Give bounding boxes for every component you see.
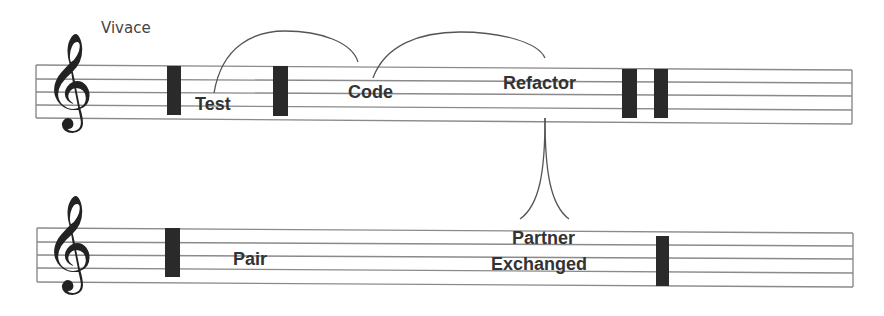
- slur-code-refactor: [373, 32, 545, 78]
- bar-4: [654, 69, 668, 118]
- treble-clef-icon: 𝄞: [44, 200, 94, 284]
- staff-1: [36, 65, 852, 124]
- label-refactor: Refactor: [503, 74, 576, 92]
- diagram-graphics: [0, 0, 884, 316]
- treble-clef-icon: 𝄞: [44, 38, 94, 122]
- bar-3: [622, 69, 637, 118]
- label-partner: Partner: [512, 229, 575, 247]
- tempo-marking: Vivace: [101, 21, 151, 36]
- staff-2: [37, 228, 853, 287]
- cusp-connector: [520, 118, 569, 219]
- label-test: Test: [195, 95, 231, 113]
- music-staff-diagram: Vivace 𝄞 𝄞 Test Code Refactor Pair Partn…: [0, 0, 884, 316]
- label-exchanged: Exchanged: [491, 255, 587, 273]
- label-pair: Pair: [233, 250, 267, 268]
- bar-2: [273, 66, 288, 116]
- label-code: Code: [348, 83, 393, 101]
- bar-6: [656, 236, 669, 286]
- bar-1: [167, 66, 181, 115]
- staff-1-bars: [167, 66, 668, 118]
- bar-5: [165, 228, 180, 277]
